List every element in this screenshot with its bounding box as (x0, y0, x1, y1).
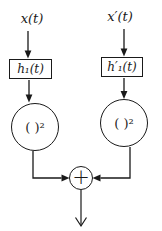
arrow-h1prime-to-squarer-head (121, 91, 128, 99)
connector-right-arrowhead (93, 175, 101, 182)
squarer-left: ( )² (11, 103, 59, 151)
squarer-right: ( )² (100, 99, 148, 147)
connector-left-squarer-to-summer (33, 151, 62, 178)
input-label-x-prime: x′(t) (107, 9, 133, 24)
input-label-x: x(t) (21, 11, 44, 26)
arrow-x-to-h1-head (25, 51, 32, 59)
block-diagram: x(t) x′(t) h₁(t) h′₁(t) ( )² ( )² + (0, 0, 162, 231)
filter-block-h1: h₁(t) (9, 59, 52, 79)
filter-block-h1-prime: h′₁(t) (101, 57, 143, 77)
plus-icon: + (72, 167, 90, 188)
connector-right-squarer-to-summer (101, 147, 131, 178)
arrow-xprime-to-h1prime-head (121, 49, 128, 57)
arrow-h1-to-squarer-head (26, 95, 33, 103)
summer-junction: + (69, 166, 93, 190)
